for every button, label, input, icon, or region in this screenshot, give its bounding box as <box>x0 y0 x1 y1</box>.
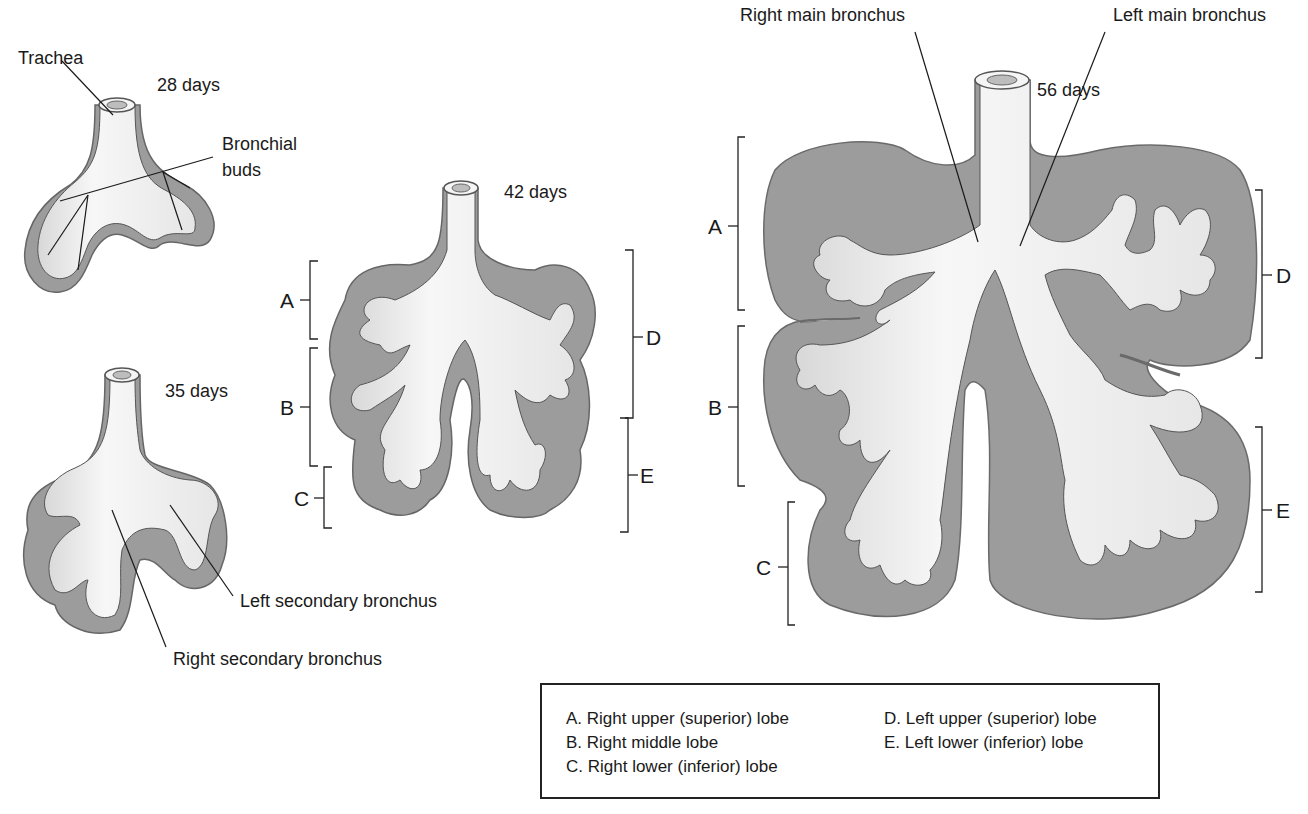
stage-42-days-drawing <box>330 181 596 518</box>
lobe-legend: A. Right upper (superior) lobe B. Right … <box>540 683 1160 799</box>
stage-56-days-drawing <box>764 32 1257 619</box>
lobe-letter-a-56: A <box>708 216 722 238</box>
legend-item-e: E. Left lower (inferior) lobe <box>884 731 1097 755</box>
legend-item-c: C. Right lower (inferior) lobe <box>566 755 789 779</box>
lobe-letter-c-56: C <box>756 557 771 579</box>
lobe-letter-b-56: B <box>708 397 722 419</box>
legend-item-d: D. Left upper (superior) lobe <box>884 707 1097 731</box>
bronchial-buds-label-line1: Bronchial <box>222 134 297 154</box>
stage-label-56-days: 56 days <box>1037 80 1100 100</box>
right-secondary-bronchus-label: Right secondary bronchus <box>173 649 382 669</box>
stage-28-days-drawing <box>25 61 214 292</box>
lobe-letter-a-42: A <box>280 290 294 312</box>
stage-label-28-days: 28 days <box>157 75 220 95</box>
lobe-letter-d-56: D <box>1276 265 1291 287</box>
lobe-letter-e-42: E <box>640 465 654 487</box>
stage-label-35-days: 35 days <box>165 381 228 401</box>
lobe-letter-b-42: B <box>280 397 294 419</box>
lobe-letter-c-42: C <box>294 488 309 510</box>
bronchial-buds-label-line2: buds <box>222 160 261 180</box>
left-main-bronchus-label: Left main bronchus <box>1113 5 1266 25</box>
stage-35-days-drawing <box>24 368 233 647</box>
legend-item-b: B. Right middle lobe <box>566 731 789 755</box>
right-main-bronchus-label: Right main bronchus <box>740 5 905 25</box>
trachea-label: Trachea <box>18 48 83 68</box>
legend-right-lung-column: A. Right upper (superior) lobe B. Right … <box>566 707 789 779</box>
left-secondary-bronchus-label: Left secondary bronchus <box>240 591 437 611</box>
lobe-letter-d-42: D <box>646 327 661 349</box>
legend-item-a: A. Right upper (superior) lobe <box>566 707 789 731</box>
legend-left-lung-column: D. Left upper (superior) lobe E. Left lo… <box>884 707 1097 755</box>
lobe-letter-e-56: E <box>1276 500 1290 522</box>
stage-label-42-days: 42 days <box>504 182 567 202</box>
